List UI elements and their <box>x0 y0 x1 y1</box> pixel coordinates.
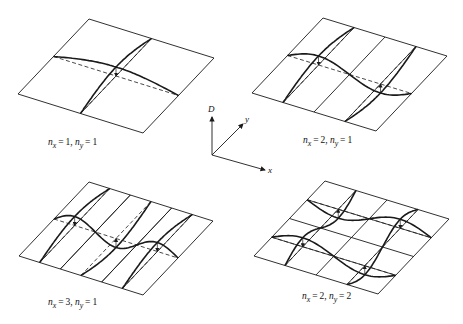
nx-subscript: x <box>53 141 57 150</box>
mode-label-2-2: nx = 2, ny = 2 <box>302 291 351 304</box>
mode-panel-2-1 <box>252 18 447 131</box>
x-axis-label: x <box>268 165 272 175</box>
nx-subscript: x <box>53 301 57 310</box>
ny-value: 1 <box>92 297 97 307</box>
ny-subscript: y <box>335 139 339 148</box>
mode-label-1-1: nx = 1, ny = 1 <box>48 137 97 150</box>
mode-shapes-diagram <box>0 0 463 324</box>
ny-value: 1 <box>92 137 97 147</box>
y-axis-arrow <box>212 124 243 155</box>
ny-subscript: y <box>80 301 84 310</box>
ny-subscript: y <box>334 295 338 304</box>
nx-subscript: x <box>308 139 312 148</box>
y-axis-label: y <box>245 114 249 124</box>
mode-panels <box>18 18 449 295</box>
ny-value: 2 <box>346 291 351 301</box>
coordinate-axes <box>212 117 265 170</box>
mode-label-3-1: nx = 3, ny = 1 <box>48 297 97 310</box>
d-axis-label: D <box>208 104 215 114</box>
mode-panel-3-1 <box>19 182 213 295</box>
ny-value: 1 <box>347 135 352 145</box>
mode-curve-x <box>54 216 178 259</box>
nx-subscript: x <box>307 295 311 304</box>
mode-curve-x <box>288 54 412 95</box>
nx-value: 3 <box>65 297 70 307</box>
mode-panel-1-1 <box>18 19 214 133</box>
x-axis-arrow <box>212 155 265 170</box>
ny-subscript: y <box>80 141 84 150</box>
mode-label-2-1: nx = 2, ny = 1 <box>303 135 352 148</box>
nx-value: 2 <box>320 135 325 145</box>
nx-value: 2 <box>319 291 324 301</box>
nx-value: 1 <box>65 137 70 147</box>
mode-panel-2-2 <box>254 181 449 294</box>
nodal-line-y <box>290 219 414 257</box>
